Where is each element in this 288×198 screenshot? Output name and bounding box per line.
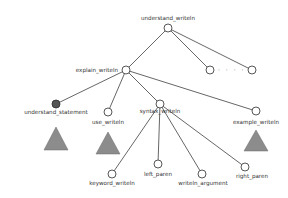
edge-root-explain: [126, 28, 168, 70]
label-keyword: keyword_writeln: [89, 180, 135, 187]
node-keyword[interactable]: [108, 170, 116, 178]
label-explain: explain_writeln: [76, 67, 119, 74]
edge-root-sibling1: [168, 28, 210, 70]
label-writeln-argument: writeln_argument: [178, 180, 228, 187]
edge-explain-example: [126, 70, 256, 111]
label-understand-statement: understand_statement: [24, 109, 88, 116]
label-syntax: syntax_writeln: [140, 108, 181, 115]
node-explain[interactable]: [122, 66, 130, 74]
edge-root-sibling2: [168, 28, 252, 70]
node-syntax[interactable]: [156, 100, 164, 108]
edge-syntax-keyword: [112, 104, 160, 174]
subtree-triangle-example[interactable]: [244, 130, 268, 151]
edge-explain-use: [108, 70, 126, 112]
node-use[interactable]: [104, 108, 112, 116]
node-root[interactable]: [164, 24, 172, 32]
node-right-paren[interactable]: [241, 163, 249, 171]
subtree-triangle-understand-statement[interactable]: [44, 127, 68, 150]
node-left-paren[interactable]: [154, 160, 162, 168]
node-sibling2[interactable]: [248, 66, 256, 74]
node-writeln-argument[interactable]: [198, 170, 206, 178]
label-left-paren: left_paren: [144, 171, 172, 178]
edges: [56, 28, 256, 174]
tree-diagram: · · · · understand_writeln explain_write…: [0, 0, 288, 198]
edge-explain-understand-statement: [56, 70, 126, 104]
ellipsis: · · · ·: [218, 66, 245, 73]
label-example: example_writeln: [233, 119, 279, 126]
node-sibling1[interactable]: [206, 66, 214, 74]
label-use: use_writeln: [92, 119, 124, 126]
collapsed-subtrees: [44, 127, 268, 154]
label-right-paren: right_paren: [236, 173, 269, 180]
node-example[interactable]: [252, 107, 260, 115]
subtree-triangle-use[interactable]: [96, 132, 120, 154]
label-root: understand_writeln: [141, 15, 195, 22]
edge-syntax-writeln-argument: [160, 104, 202, 174]
node-understand-statement[interactable]: [52, 100, 60, 108]
